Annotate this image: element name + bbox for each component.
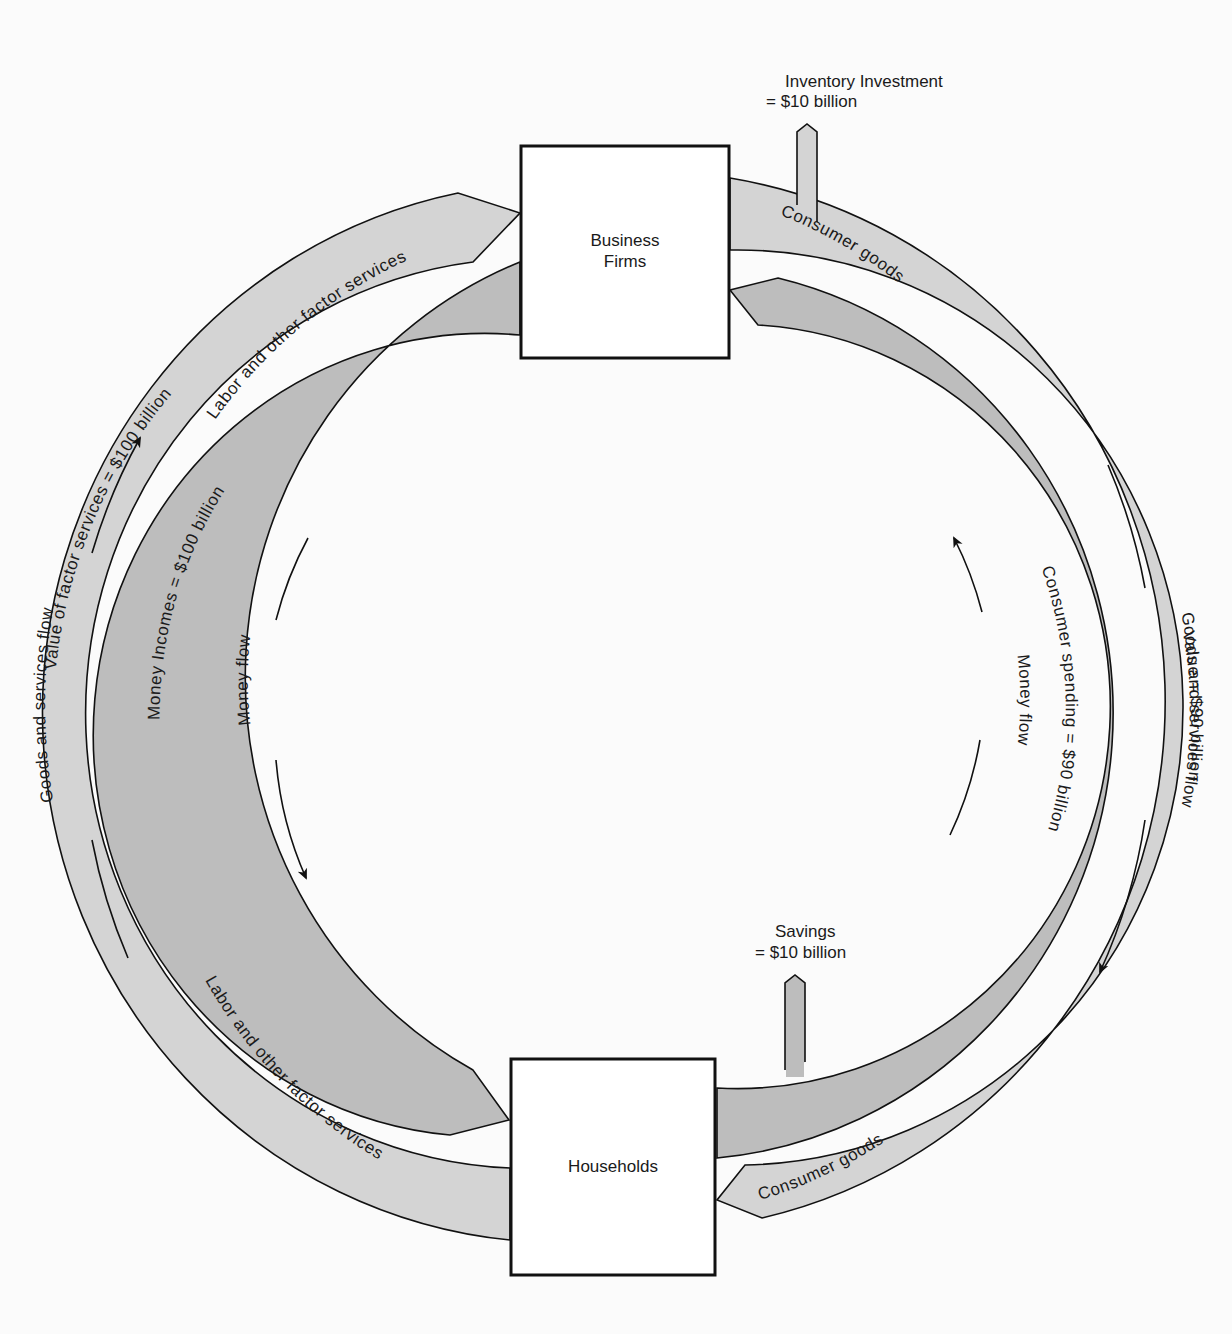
business-firms-label-line1: Business [591,231,660,250]
inner-band-right-label: Consumer spending = $90 billion [1038,563,1081,834]
business-firms-label-line2: Firms [604,252,646,271]
right-money-flow-label: Money flow [1014,654,1036,747]
savings-label-line1: Savings [775,922,835,941]
inventory-investment-label-line1: Inventory Investment [785,72,943,91]
inner-band-right [717,278,1113,1158]
households-node: Households [511,1059,715,1275]
right-money-flow-arrow [954,538,982,612]
business-firms-node: Business Firms [521,146,729,358]
households-label: Households [568,1157,658,1176]
inventory-investment-label-line2: = $10 billion [766,92,857,111]
circular-flow-diagram: Business Firms Households Labor and othe… [0,0,1232,1334]
right-money-flow-tail [950,740,980,835]
left-money-flow-tail [276,538,308,620]
savings-label-line2: = $10 billion [755,943,846,962]
